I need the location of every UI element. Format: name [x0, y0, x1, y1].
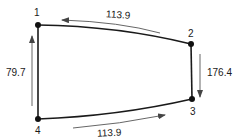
edge-label-bottom: 113.9 — [97, 126, 122, 138]
node-label-4: 4 — [35, 125, 41, 136]
node-label-1: 1 — [34, 7, 40, 18]
node-3 — [189, 96, 195, 102]
edge-label-left: 79.7 — [6, 67, 26, 78]
loop-diagram: 1 2 3 4 113.9 176.4 113.9 79.7 — [0, 0, 236, 140]
edge-label-top: 113.9 — [106, 8, 131, 21]
edge-label-right: 176.4 — [207, 67, 232, 78]
edge-2-3 — [191, 44, 192, 99]
edge-3-4 — [38, 99, 192, 119]
node-label-3: 3 — [190, 106, 196, 117]
node-4 — [35, 116, 41, 122]
diagram-canvas: 1 2 3 4 113.9 176.4 113.9 79.7 — [0, 0, 236, 140]
edge-1-2 — [38, 25, 191, 44]
node-label-2: 2 — [188, 28, 194, 39]
node-2 — [188, 41, 194, 47]
node-1 — [35, 22, 41, 28]
